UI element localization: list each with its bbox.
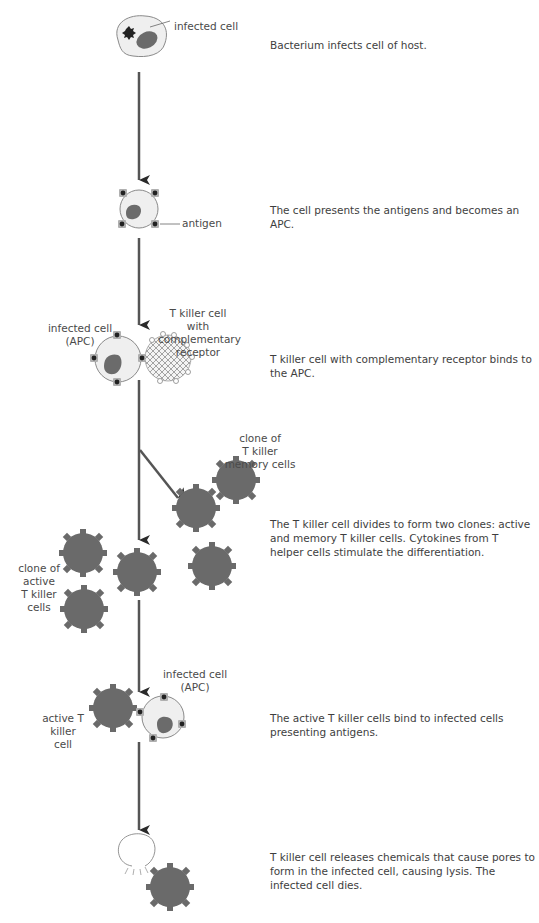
label-line: T killer cells bbox=[8, 588, 70, 614]
label-line: receptor bbox=[158, 346, 238, 359]
active-t-killer-icon bbox=[89, 684, 137, 732]
label-line: T killer cell with bbox=[158, 307, 238, 333]
lysed-cell-icon bbox=[118, 834, 155, 875]
arrow-step-3-memory bbox=[140, 450, 178, 498]
t-killer-lysis-icon bbox=[146, 863, 194, 911]
step-4-description: The T killer cell divides to form two cl… bbox=[270, 517, 535, 559]
label-infected-cell-apc-2: infected cell (APC) bbox=[160, 668, 230, 694]
label-line: complementary bbox=[158, 333, 238, 346]
label-line: memory cells bbox=[215, 458, 305, 471]
label-line: clone of bbox=[215, 432, 305, 445]
step-3-description: T killer cell with complementary recepto… bbox=[270, 352, 535, 380]
step-6-description: T killer cell releases chemicals that ca… bbox=[270, 850, 535, 892]
infected-cell-icon bbox=[117, 16, 170, 57]
step-1-description: Bacterium infects cell of host. bbox=[270, 38, 535, 52]
label-line: (APC) bbox=[40, 335, 120, 348]
label-active-clone: clone of active T killer cells bbox=[8, 562, 70, 614]
label-line: infected cell bbox=[40, 322, 120, 335]
label-line: T killer bbox=[215, 445, 305, 458]
label-line: infected cell bbox=[160, 668, 230, 681]
label-infected-cell: infected cell bbox=[174, 20, 238, 33]
infected-apc-icon bbox=[136, 693, 186, 742]
step-5-description: The active T killer cells bind to infect… bbox=[270, 711, 535, 739]
label-memory-clone: clone of T killer memory cells bbox=[215, 432, 305, 471]
active-clone-cells-icon bbox=[59, 529, 161, 633]
apc-cell-icon bbox=[118, 189, 180, 228]
label-line: active bbox=[8, 575, 70, 588]
label-line: (APC) bbox=[160, 681, 230, 694]
label-antigen: antigen bbox=[182, 217, 222, 230]
label-line: cell bbox=[30, 738, 96, 751]
label-infected-cell-apc: infected cell (APC) bbox=[40, 322, 120, 348]
label-active-t-killer: active T killer cell bbox=[30, 712, 96, 751]
label-t-killer-receptor: T killer cell with complementary recepto… bbox=[158, 307, 238, 359]
label-line: clone of bbox=[8, 562, 70, 575]
memory-clone-cells-icon bbox=[172, 456, 260, 590]
step-2-description: The cell presents the antigens and becom… bbox=[270, 203, 535, 231]
label-line: active T killer bbox=[30, 712, 96, 738]
